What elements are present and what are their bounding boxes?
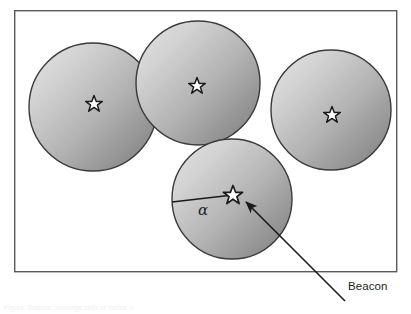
figure-caption-fragment: Figure. Beacon coverage cells of radius … xyxy=(4,304,224,312)
figure-container: α Beacon Figure. Beacon coverage cells o… xyxy=(0,0,411,314)
alpha-radius-label: α xyxy=(198,203,208,218)
beacon-coverage-diagram xyxy=(0,0,411,314)
beacon-callout-label: Beacon xyxy=(348,281,388,293)
